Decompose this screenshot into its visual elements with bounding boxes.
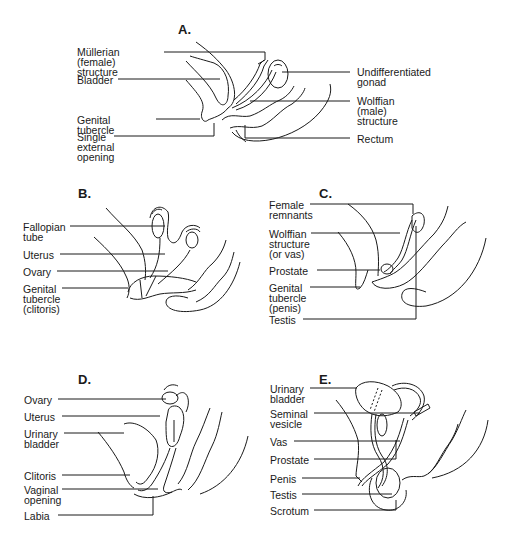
panel-a-title: A. (178, 22, 191, 37)
label-testis: Testis (270, 490, 297, 500)
panel-a-drawing (114, 42, 350, 142)
panel-e-title: E. (319, 372, 331, 387)
label-clitoris: Clitoris (24, 471, 56, 481)
panel-b-drawing (57, 207, 240, 311)
label-genital-tubercle-penis: Genital tubercle (penis) (269, 283, 306, 313)
panel-d-title: D. (78, 372, 91, 387)
label-urinary-bladder: Urinary bladder (270, 384, 305, 404)
label-vas: Vas (270, 437, 287, 447)
label-prostate: Prostate (269, 266, 308, 276)
label-vaginal-opening: Vaginal opening (24, 485, 61, 505)
panel-b-title: B. (78, 186, 91, 201)
label-single-external-opening: Single external opening (77, 132, 114, 162)
label-bladder: Bladder (77, 75, 113, 85)
label-scrotum: Scrotum (270, 506, 309, 516)
label-uterus: Uterus (23, 250, 54, 260)
label-wolffian-structure-vas: Wolffian structure (or vas) (269, 229, 310, 259)
label-female-remnants: Female remnants (269, 200, 313, 220)
label-labia: Labia (24, 511, 50, 521)
label-seminal-vesicle: Seminal vesicle (270, 409, 308, 429)
label-urinary-bladder: Urinary bladder (24, 429, 59, 449)
label-genital-tubercle-clitoris: Genital tubercle (clitoris) (23, 284, 60, 314)
label-undifferentiated-gonad: Undifferentiated gonad (357, 67, 431, 87)
panel-c-title: C. (319, 186, 332, 201)
label-ovary: Ovary (23, 267, 51, 277)
label-fallopian-tube: Fallopian tube (23, 222, 66, 242)
label-wolffian-male-structure: Wolffian (male) structure (357, 96, 398, 126)
label-testis: Testis (269, 315, 296, 325)
panel-d-drawing (58, 385, 248, 515)
label-ovary: Ovary (24, 395, 52, 405)
label-prostate: Prostate (270, 455, 309, 465)
panel-e-drawing (294, 382, 488, 511)
label-mullerian-structure: Müllerian (female) structure (77, 47, 120, 77)
label-uterus: Uterus (24, 412, 55, 422)
label-rectum: Rectum (357, 134, 393, 144)
panel-c-drawing (303, 204, 486, 319)
label-penis: Penis (270, 474, 296, 484)
